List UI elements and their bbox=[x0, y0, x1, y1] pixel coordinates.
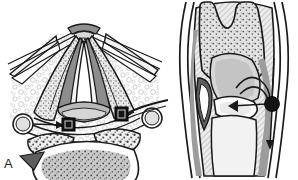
figure-root: A bbox=[0, 0, 298, 180]
panel-b: B bbox=[170, 0, 298, 180]
panel-a-label: A bbox=[4, 157, 13, 170]
injection-site-marker bbox=[265, 97, 280, 112]
injection-site-right-marker bbox=[115, 107, 128, 121]
injection-site-left-marker bbox=[62, 118, 75, 131]
tongue-base-lingual-tonsil bbox=[33, 141, 139, 180]
panel-a-illustration bbox=[0, 0, 170, 180]
cannula-ring-right bbox=[142, 108, 162, 128]
panel-a: A bbox=[0, 0, 170, 180]
panel-b-illustration bbox=[170, 0, 298, 180]
subglottic-airway bbox=[211, 115, 256, 176]
cannula-ring-left bbox=[13, 114, 33, 134]
